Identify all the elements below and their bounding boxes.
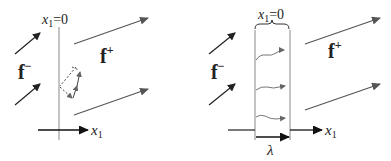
reflection-solid-up-arrow-2 [77, 72, 80, 86]
left-outgoing-arrow-2 [74, 89, 148, 115]
layer-wavy-arrow-2 [256, 86, 285, 90]
left-incoming-arrow-2 [15, 84, 40, 105]
right-panel: x1=0 f− f+ x1 λ [209, 7, 380, 158]
reflection-dashed-in-arrow [60, 87, 72, 98]
reflection-path [60, 67, 80, 98]
left-incoming-arrow-1 [15, 33, 40, 54]
right-boundary-label: x1=0 [257, 7, 284, 24]
right-incoming-label: f− [211, 59, 225, 83]
right-incoming-arrow-1 [209, 33, 235, 54]
right-outgoing-label: f+ [328, 38, 342, 62]
layer-wavy-arrow-3 [256, 115, 285, 119]
left-axis-label: x1 [90, 122, 103, 140]
right-outgoing-arrow-1 [305, 18, 380, 44]
left-outgoing-arrow-1 [74, 18, 148, 44]
left-boundary-label: x1=0 [41, 12, 68, 29]
right-outgoing-arrow-2 [305, 84, 380, 110]
reflection-dashed-back-line [60, 67, 76, 86]
layer-width-label: λ [266, 142, 274, 158]
reflection-solid-up-arrow-1 [73, 86, 77, 98]
diagram-canvas: x1=0 f− f+ x1 x1= [0, 0, 391, 161]
right-axis-label: x1 [324, 122, 337, 140]
left-incoming-label: f− [18, 59, 32, 83]
left-panel: x1=0 f− f+ x1 [15, 12, 148, 140]
right-incoming-arrow-2 [209, 84, 235, 105]
left-outgoing-label: f+ [100, 43, 114, 67]
layer-wavy-arrow-1 [256, 50, 284, 60]
